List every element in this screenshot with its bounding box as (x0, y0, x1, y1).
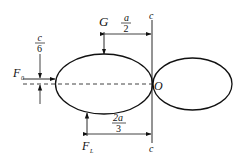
svg-text:c: c (38, 32, 43, 43)
label-FL: F L (81, 139, 94, 154)
svg-text:2a: 2a (113, 112, 123, 123)
label-O: O (154, 79, 163, 93)
svg-text:a: a (124, 12, 129, 23)
diagram-canvas: G c c O F 0 F L a 2 c 6 2a 3 (0, 0, 245, 159)
label-G: G (99, 14, 109, 29)
svg-text:L: L (89, 148, 94, 154)
label-c-bottom: c (149, 143, 154, 154)
svg-text:0: 0 (21, 75, 24, 81)
svg-text:3: 3 (116, 123, 121, 134)
svg-text:F: F (12, 66, 21, 80)
svg-text:2: 2 (124, 23, 129, 34)
label-F0: F 0 (12, 66, 24, 81)
fraction-c-sixth: c 6 (35, 32, 45, 54)
svg-text:F: F (81, 139, 90, 153)
right-ellipse (153, 58, 232, 110)
label-c-top: c (149, 10, 154, 21)
fraction-two-a-third: 2a 3 (112, 112, 126, 134)
svg-text:6: 6 (37, 43, 42, 54)
fraction-a-half: a 2 (121, 12, 131, 34)
